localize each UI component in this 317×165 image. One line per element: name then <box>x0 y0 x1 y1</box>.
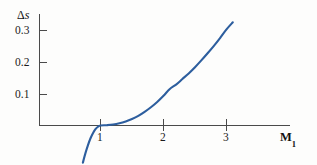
x-axis-label: M1 <box>280 130 296 147</box>
plot-canvas <box>0 0 317 165</box>
x-axis-label-symbol: M <box>280 130 292 144</box>
y-tick-label-0.2: 0.2 <box>15 56 30 68</box>
chart-figure: Δs M1 0.3 0.2 0.1 1 2 3 <box>0 0 317 165</box>
x-tick-label-1: 1 <box>97 131 103 143</box>
y-axis-label-delta: Δ <box>17 8 25 22</box>
x-tick-label-2: 2 <box>160 131 166 143</box>
y-tick-label-0.1: 0.1 <box>15 88 30 100</box>
x-tick-label-3: 3 <box>223 131 229 143</box>
y-axis-label-variable: s <box>25 8 30 22</box>
entropy-curve <box>83 22 233 162</box>
y-tick-label-0.3: 0.3 <box>15 24 30 36</box>
y-axis-label: Δs <box>17 8 29 23</box>
x-axis-label-subscript: 1 <box>292 139 296 149</box>
